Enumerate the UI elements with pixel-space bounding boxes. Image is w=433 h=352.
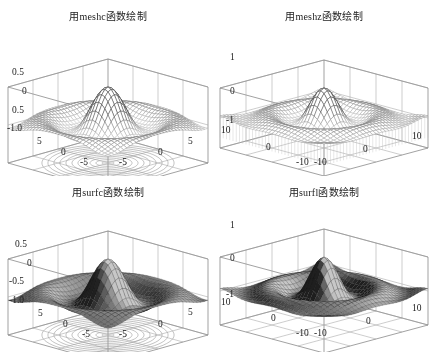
z-tick-label: -0.5 [9, 277, 24, 287]
surfl-plot-canvas [216, 176, 433, 352]
floor-tick-label: 0 [158, 148, 163, 158]
z-tick-label: 0.5 [15, 240, 27, 250]
floor-tick-label: -5 [80, 158, 88, 168]
z-tick-label: 0.5 [12, 106, 24, 116]
floor-tick-label: 5 [38, 309, 43, 319]
floor-tick-label: -5 [119, 330, 127, 340]
surfc-plot-canvas [0, 176, 216, 352]
floor-tick-label: 0 [61, 148, 66, 158]
floor-tick-label: -5 [82, 330, 90, 340]
panel-meshc: 用meshc函数绘制 0.500.5-1.050-5-505 [0, 0, 216, 176]
z-tick-label: -1.0 [9, 296, 24, 306]
floor-tick-label: -10 [296, 329, 309, 339]
floor-tick-label: -10 [314, 158, 327, 168]
floor-tick-label: -5 [119, 158, 127, 168]
z-tick-label: 1 [230, 221, 235, 231]
floor-tick-label: 5 [37, 137, 42, 147]
surfl-title: 用surfl函数绘制 [216, 184, 432, 199]
panel-meshz: 用meshz函数绘制 10-1100-10-10010 [216, 0, 432, 176]
floor-tick-label: 0 [271, 314, 276, 324]
meshc-title: 用meshc函数绘制 [0, 8, 216, 23]
floor-tick-label: 5 [188, 137, 193, 147]
z-tick-label: 1 [230, 53, 235, 63]
z-tick-label: 0 [230, 254, 235, 264]
floor-tick-label: -10 [314, 329, 327, 339]
meshc-plot-canvas [0, 0, 216, 176]
floor-tick-label: 10 [412, 132, 422, 142]
floor-tick-label: 10 [412, 304, 422, 314]
floor-tick-label: 5 [188, 308, 193, 318]
floor-tick-label: 10 [221, 298, 231, 308]
z-tick-label: 0 [230, 87, 235, 97]
panel-surfc: 用surfc函数绘制 0.50-0.5-1.050-5-505 [0, 176, 216, 352]
surfc-title: 用surfc函数绘制 [0, 184, 216, 199]
z-tick-label: 0 [22, 87, 27, 97]
floor-tick-label: 0 [266, 143, 271, 153]
floor-tick-label: -10 [296, 158, 309, 168]
floor-tick-label: 0 [63, 320, 68, 330]
z-tick-label: 0 [27, 259, 32, 269]
floor-tick-label: 0 [366, 317, 371, 327]
meshz-plot-canvas [216, 0, 433, 176]
z-tick-label: -1.0 [7, 124, 22, 134]
floor-tick-label: 0 [363, 145, 368, 155]
floor-tick-label: 10 [221, 126, 231, 136]
floor-tick-label: 0 [158, 320, 163, 330]
z-tick-label: 0.5 [12, 68, 24, 78]
meshz-title: 用meshz函数绘制 [216, 8, 432, 23]
panel-surfl: 用surfl函数绘制 10-1100-10-10010 [216, 176, 432, 352]
